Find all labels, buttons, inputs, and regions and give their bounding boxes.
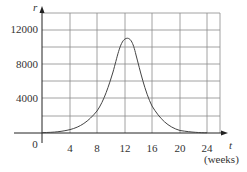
x-tick-12: 12 xyxy=(120,142,131,154)
y-tick-4000: 4000 xyxy=(16,92,39,104)
y-axis-arrow-icon xyxy=(40,6,45,13)
axes xyxy=(14,12,222,143)
x-tick-4: 4 xyxy=(67,142,73,154)
x-axis-label: t xyxy=(229,139,233,151)
x-axis-arrow-icon xyxy=(221,131,228,136)
x-tick-24: 24 xyxy=(202,142,214,154)
y-tick-12000: 12000 xyxy=(11,23,39,35)
x-axis-unit: (weeks) xyxy=(204,153,239,166)
x-tick-20: 20 xyxy=(175,142,187,154)
chart: r t (weeks) 12000 8000 4000 0 4 8 12 16 … xyxy=(0,0,247,172)
x-tick-0: 0 xyxy=(32,138,38,150)
x-tick-8: 8 xyxy=(94,142,100,154)
x-tick-16: 16 xyxy=(147,142,159,154)
y-tick-8000: 8000 xyxy=(16,58,39,70)
y-axis-label: r xyxy=(33,1,38,13)
grid xyxy=(42,13,220,133)
data-curve xyxy=(42,38,207,133)
